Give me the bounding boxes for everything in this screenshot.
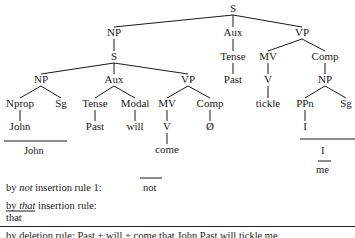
tree-node-modal: Modal <box>121 97 150 109</box>
that-rule-label: by that insertion rule: <box>6 201 97 212</box>
tree-node-s1: S <box>111 50 117 62</box>
tree-node-v2: V <box>163 120 171 132</box>
tree-node-mv1: MV <box>259 50 277 62</box>
tree-node-john: John <box>10 120 31 132</box>
tree-node-np1: NP <box>107 26 121 38</box>
john-derivation-result: John <box>24 146 44 157</box>
not-rule-suffix: insertion rule 1: <box>33 182 102 193</box>
tree-node-aux2: Aux <box>105 73 124 85</box>
tree-node-aux1: Aux <box>224 26 243 38</box>
tree-node-comp2: Comp <box>197 97 224 109</box>
tree-node-sg1: Sg <box>55 97 67 109</box>
me-derivation-result: me <box>316 165 329 176</box>
tree-node-tickle: tickle <box>256 97 281 109</box>
tree-node-tense1: Tense <box>220 50 246 62</box>
tree-node-sg3: Sg <box>340 97 352 109</box>
tree-node-nprop: Nprop <box>6 97 35 109</box>
tree-edge <box>41 63 114 74</box>
tree-node-np3: NP <box>318 73 332 85</box>
tree-node-come: come <box>155 143 179 155</box>
not-rule-prefix: by <box>6 182 19 193</box>
tree-node-past1: Past <box>224 73 242 85</box>
tree-node-will: will <box>126 120 143 132</box>
tree-node-mv2: MV <box>158 97 176 109</box>
tree-node-null: Ø <box>206 120 214 132</box>
tree-node-s0: S <box>230 2 236 14</box>
tree-node-comp1: Comp <box>312 50 339 62</box>
tree-node-i: I <box>303 120 307 132</box>
tree-node-vp1: VP <box>295 26 309 38</box>
tree-edge <box>233 15 302 27</box>
bottom-truncated-line: by deletion rule: Past + will + come tha… <box>6 231 278 238</box>
that-result: that <box>6 213 22 224</box>
tree-edge <box>114 63 188 74</box>
tree-node-past2: Past <box>86 120 104 132</box>
i-derivation-result: I <box>321 146 325 157</box>
that-rule-suffix: insertion rule: <box>35 200 96 211</box>
tree-node-np2: NP <box>34 73 48 85</box>
not-result: not <box>143 183 156 194</box>
tree-edge <box>114 15 233 27</box>
not-rule-italic: not <box>19 182 32 193</box>
that-rule-prefix: by <box>6 200 19 211</box>
not-rule-label: by not insertion rule 1: <box>6 183 102 194</box>
tree-node-vp2: VP <box>181 73 195 85</box>
tree-node-v1: V <box>264 73 272 85</box>
tree-node-tense2: Tense <box>82 97 108 109</box>
tree-nodes: SNPAuxVPSNPAuxVPNpropSgTenseModalMVCompJ… <box>6 2 352 155</box>
tree-node-ppn: PPn <box>296 97 314 109</box>
that-rule-italic: that <box>19 200 35 211</box>
